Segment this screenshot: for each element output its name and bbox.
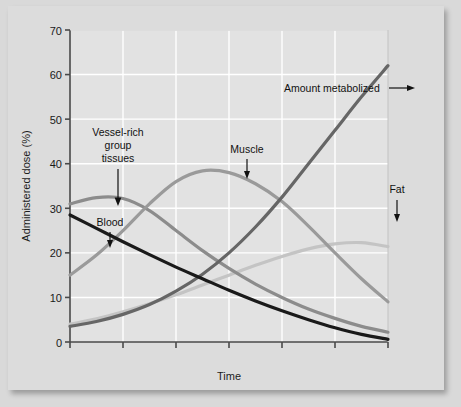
x-tick-marks <box>70 342 388 348</box>
annotation-metabolized-arrow-head <box>407 85 415 91</box>
annotation-fat-arrow-head <box>394 214 400 222</box>
annotation-fat-label: Fat <box>389 183 404 195</box>
figure-panel: 70 60 50 40 30 20 10 0 Administered dose… <box>8 6 444 390</box>
annotation-fat: Fat <box>389 183 404 222</box>
chart-plot-area: 70 60 50 40 30 20 10 0 Administered dose… <box>8 6 444 390</box>
annotation-metabolized-label: Amount metabolized <box>284 82 380 94</box>
y-tick-label-10: 10 <box>50 292 62 304</box>
annotation-vrg-line3: tissues <box>102 152 135 164</box>
y-tick-label-0: 0 <box>56 337 62 349</box>
y-tick-label-60: 60 <box>50 69 62 81</box>
y-tick-label-50: 50 <box>50 114 62 126</box>
annotation-muscle-label: Muscle <box>230 143 263 155</box>
y-tick-label-70: 70 <box>50 25 62 37</box>
y-axis-title: Administered dose (%) <box>20 130 32 241</box>
y-tick-label-20: 20 <box>50 247 62 259</box>
line-chart: 70 60 50 40 30 20 10 0 Administered dose… <box>8 6 444 390</box>
annotation-blood-label: Blood <box>97 216 124 228</box>
annotation-vrg-line2: group <box>105 139 132 151</box>
annotation-vrg-line1: Vessel-rich <box>92 126 144 138</box>
x-axis-title: Time <box>217 370 241 382</box>
y-tick-label-40: 40 <box>50 158 62 170</box>
y-tick-label-30: 30 <box>50 203 62 215</box>
annotation-amount-metabolized: Amount metabolized <box>284 82 415 94</box>
